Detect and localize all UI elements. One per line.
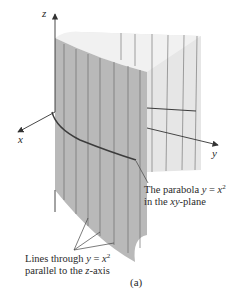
parabola-annotation: The parabola y = x2 in the xy-plane: [144, 184, 226, 208]
surface-front-sheet: [55, 38, 147, 262]
x-axis-label: x: [18, 134, 23, 145]
y-axis-label: y: [212, 148, 217, 159]
z-axis-label: z: [42, 8, 46, 19]
figure-caption: (a): [130, 277, 142, 288]
x-axis: [18, 112, 55, 132]
rulings-annotation: Lines through y = x2 parallel to the z-a…: [25, 253, 110, 277]
